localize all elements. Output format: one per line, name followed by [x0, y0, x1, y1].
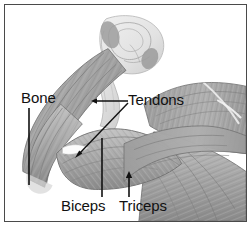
- tendons-lower-leader-line: [79, 103, 128, 154]
- triceps-arrowhead: [126, 171, 132, 178]
- label-triceps: Triceps: [119, 198, 167, 213]
- figure-frame: Bone Tendons Biceps Triceps: [4, 4, 247, 222]
- label-bone: Bone: [21, 90, 56, 105]
- tendons-upper-arrowhead: [91, 98, 97, 104]
- anatomy-figure: Bone Tendons Biceps Triceps: [0, 0, 252, 232]
- label-tendons: Tendons: [128, 92, 184, 107]
- label-biceps: Biceps: [61, 198, 105, 213]
- leader-lines: [5, 5, 247, 222]
